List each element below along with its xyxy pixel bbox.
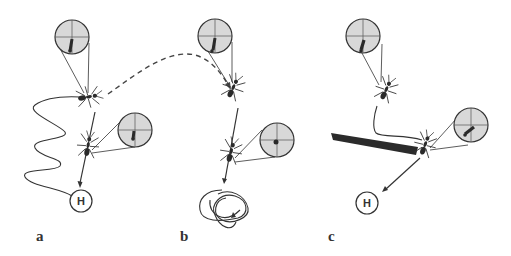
- home-nest-icon: H: [70, 190, 92, 212]
- ant-navigation-figure: H: [0, 0, 511, 256]
- panel-c: H: [331, 19, 488, 214]
- panel-b: [198, 19, 294, 228]
- compass-inset-icon: [454, 108, 488, 142]
- panel-label-a: a: [36, 228, 44, 245]
- ant-icon: [75, 84, 104, 110]
- arrowhead-icon: [231, 212, 236, 218]
- compass-inset-icon: [260, 123, 294, 157]
- arrowhead-icon: [78, 181, 83, 188]
- panel-label-c: c: [328, 228, 335, 245]
- arrowhead-icon: [222, 178, 227, 184]
- compass-inset-icon: [118, 113, 152, 147]
- detour-path: [374, 106, 422, 140]
- panel-label-b: b: [180, 228, 188, 245]
- compass-inset-icon: [346, 19, 380, 53]
- compass-inset-icon: [198, 19, 232, 53]
- svg-text:H: H: [77, 195, 85, 207]
- arrowhead-icon: [382, 186, 388, 192]
- ant-icon: [371, 72, 402, 105]
- svg-text:H: H: [363, 197, 371, 209]
- search-path: [25, 97, 80, 196]
- search-loops: [200, 190, 248, 228]
- compass-inset-icon: [55, 20, 89, 54]
- home-nest-icon: H: [356, 192, 378, 214]
- panel-a: H: [25, 20, 152, 212]
- displacement-arrow: [108, 54, 228, 94]
